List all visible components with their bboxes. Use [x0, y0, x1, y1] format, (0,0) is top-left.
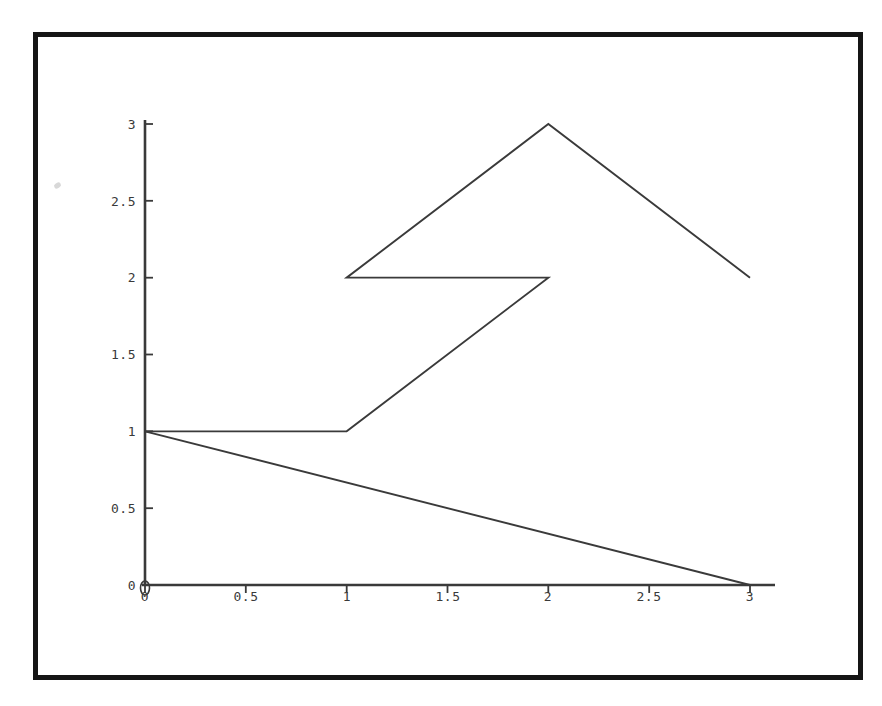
axis-lines: [142, 120, 775, 585]
y-tick-label-2: 2: [108, 271, 136, 284]
x-tick-label-2-5: 2.5: [629, 590, 669, 603]
x-tick-label-2: 2: [534, 590, 562, 603]
series-zigzag-polyline: [145, 124, 750, 431]
y-tick-label-2-5: 2.5: [100, 195, 136, 208]
y-tick-label-3: 3: [108, 118, 136, 131]
x-tick-label-1: 1: [333, 590, 361, 603]
y-tick-label-1: 1: [108, 425, 136, 438]
x-tick-label-1-5: 1.5: [428, 590, 468, 603]
figure-page: 0 0.5 1 1.5 2 2.5 3 0 0.5 1 1.5 2 2.5 3: [0, 0, 882, 706]
y-tick-label-0-5: 0.5: [100, 502, 136, 515]
series-descending-line: [145, 431, 750, 585]
x-tick-label-0: 0: [131, 590, 159, 603]
y-tick-label-1-5: 1.5: [100, 348, 136, 361]
x-tick-label-3: 3: [736, 590, 764, 603]
x-tick-label-0-5: 0.5: [226, 590, 266, 603]
